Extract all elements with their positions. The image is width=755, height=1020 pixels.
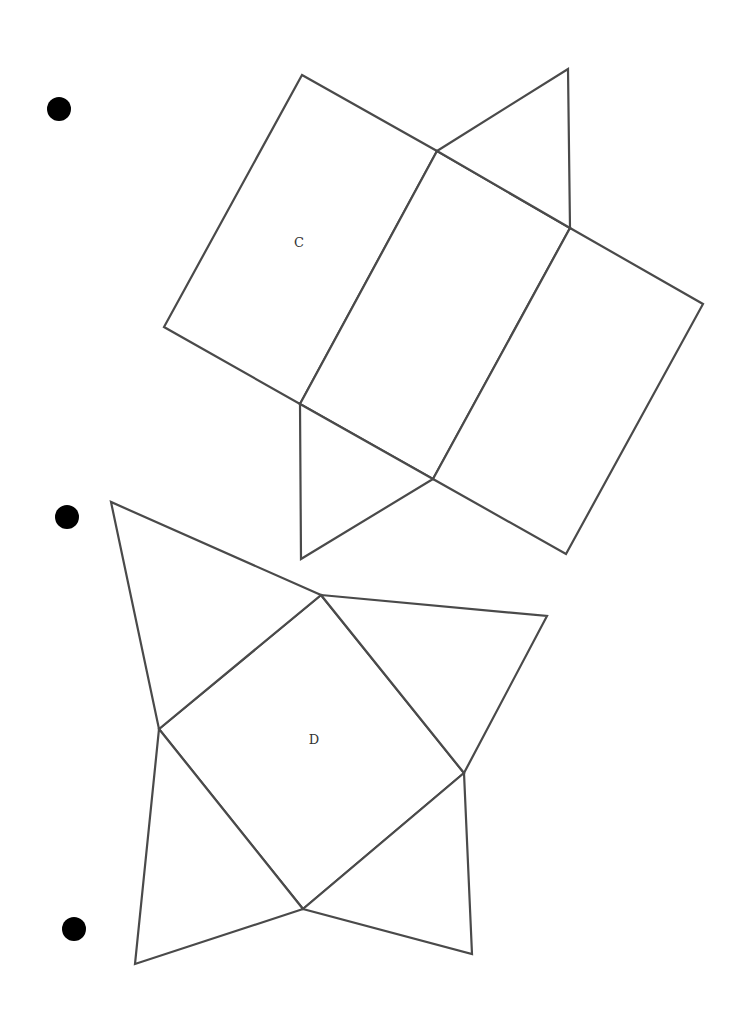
net-c-label: C <box>294 235 304 250</box>
net-d-label: D <box>309 732 319 747</box>
bullet-dot-icon <box>62 917 86 941</box>
bullet-dot-icon <box>55 505 79 529</box>
bullet-dot-icon <box>47 97 71 121</box>
diagram-canvas: C D <box>0 0 755 1020</box>
